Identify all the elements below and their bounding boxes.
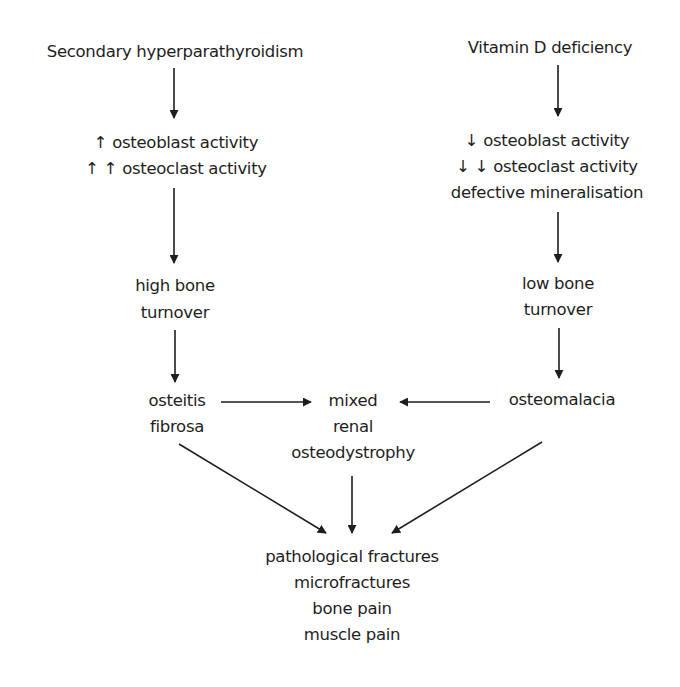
node-text: fibrosa: [148, 414, 205, 440]
node-text: ↓ ↓ osteoclast activity: [451, 154, 643, 180]
bone-disease-flowchart: Secondary hyperparathyroidism ↑ osteobla…: [0, 0, 680, 687]
node-text: mixed: [291, 388, 415, 414]
node-text: osteodystrophy: [291, 440, 415, 466]
node-text: muscle pain: [265, 622, 439, 648]
node-text: Secondary hyperparathyroidism: [47, 40, 304, 64]
node-text: low bone: [522, 271, 594, 297]
node-text: turnover: [522, 297, 594, 323]
node-text: turnover: [135, 299, 215, 326]
node-text: bone pain: [265, 596, 439, 622]
node-outcomes: pathological fractures microfractures bo…: [265, 544, 439, 648]
node-text: ↑ ↑ osteoclast activity: [85, 156, 267, 182]
node-vitamin-d-deficiency: Vitamin D deficiency: [468, 36, 633, 60]
node-text: microfractures: [265, 570, 439, 596]
node-text: ↓ osteoblast activity: [451, 128, 643, 154]
node-text: ↑ osteoblast activity: [85, 130, 267, 156]
node-low-bone-turnover: low bone turnover: [522, 271, 594, 323]
node-text: renal: [291, 414, 415, 440]
node-decreased-activity: ↓ osteoblast activity ↓ ↓ osteoclast act…: [451, 128, 643, 206]
node-text: defective mineralisation: [451, 180, 643, 206]
node-text: pathological fractures: [265, 544, 439, 570]
node-text: osteomalacia: [509, 388, 615, 412]
node-secondary-hyperparathyroidism: Secondary hyperparathyroidism: [47, 40, 304, 64]
node-increased-activity: ↑ osteoblast activity ↑ ↑ osteoclast act…: [85, 130, 267, 182]
node-osteomalacia: osteomalacia: [509, 388, 615, 412]
node-mixed-renal-osteodystrophy: mixed renal osteodystrophy: [291, 388, 415, 466]
node-high-bone-turnover: high bone turnover: [135, 272, 215, 326]
node-osteitis-fibrosa: osteitis fibrosa: [148, 388, 205, 440]
node-text: Vitamin D deficiency: [468, 36, 633, 60]
node-text: osteitis: [148, 388, 205, 414]
node-text: high bone: [135, 272, 215, 299]
